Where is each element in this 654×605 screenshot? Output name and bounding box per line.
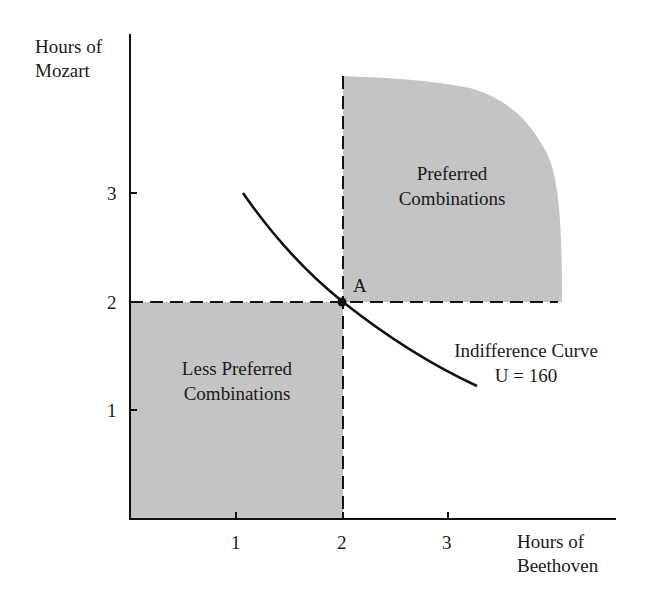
preferred-label-line2: Combinations bbox=[399, 188, 506, 209]
preferred-label-line1: Preferred bbox=[417, 163, 488, 184]
x-axis-title-line1: Hours of bbox=[517, 531, 585, 552]
less-preferred-label-line2: Combinations bbox=[184, 383, 291, 404]
y-tick-label-3: 3 bbox=[107, 183, 117, 204]
x-axis-title-line2: Beethoven bbox=[517, 555, 599, 576]
curve-label-line1: Indifference Curve bbox=[454, 340, 598, 361]
y-tick-label-2: 2 bbox=[107, 292, 117, 313]
curve-label-line2: U = 160 bbox=[495, 365, 557, 386]
x-tick-label-1: 1 bbox=[231, 532, 241, 553]
y-axis-title-line2: Mozart bbox=[35, 60, 91, 81]
point-a-label: A bbox=[353, 275, 367, 296]
less-preferred-label-line1: Less Preferred bbox=[182, 358, 293, 379]
less-preferred-region bbox=[130, 302, 343, 519]
y-tick-label-1: 1 bbox=[107, 400, 117, 421]
point-a-marker bbox=[338, 298, 347, 307]
y-axis-title-line1: Hours of bbox=[35, 36, 103, 57]
x-tick-label-3: 3 bbox=[442, 532, 452, 553]
indifference-curve-diagram: 1 2 3 1 2 3 Hours of Mozart Hours of Bee… bbox=[0, 0, 654, 605]
x-tick-label-2: 2 bbox=[337, 532, 347, 553]
